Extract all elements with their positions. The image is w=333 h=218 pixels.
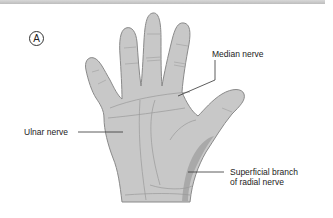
- label-radial-line2: of radial nerve: [230, 177, 298, 187]
- label-radial-line1: Superficial branch: [230, 167, 298, 177]
- hand-outline: [85, 13, 244, 202]
- label-ulnar-nerve: Ulnar nerve: [24, 127, 68, 137]
- label-median-nerve: Median nerve: [212, 49, 264, 59]
- label-radial-nerve: Superficial branch of radial nerve: [230, 167, 298, 187]
